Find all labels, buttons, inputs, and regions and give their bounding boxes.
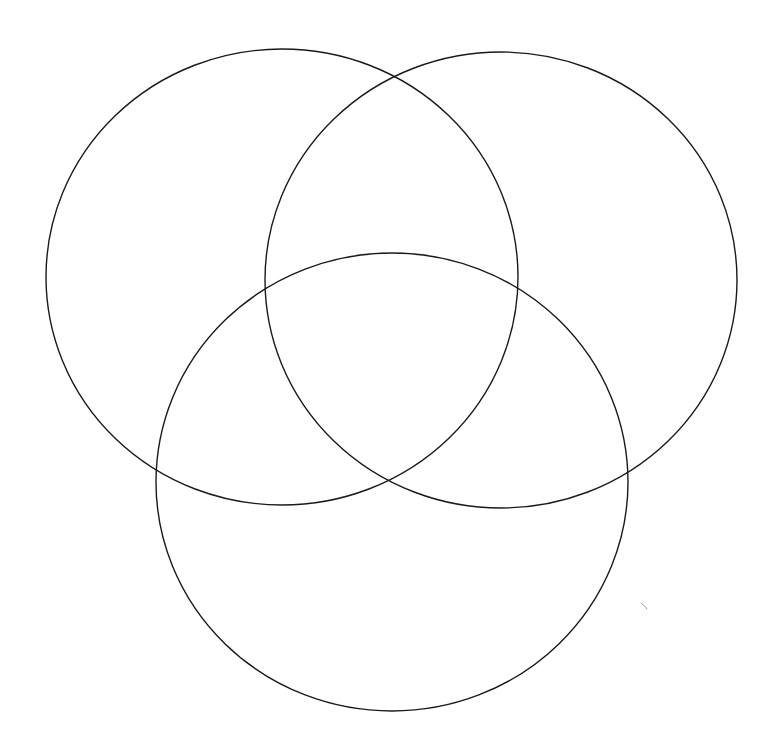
set-circle-left xyxy=(46,49,518,505)
set-circle-right xyxy=(265,52,737,508)
stray-pencil-mark xyxy=(641,603,647,609)
venn-diagram xyxy=(0,0,762,753)
venn-diagram-canvas xyxy=(0,0,762,753)
